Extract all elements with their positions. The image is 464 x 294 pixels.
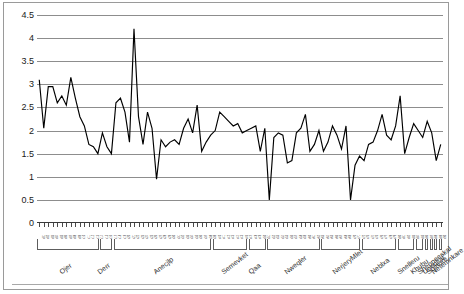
x-tick bbox=[148, 223, 149, 227]
group-label: Semevket bbox=[220, 251, 249, 276]
x-tick bbox=[44, 223, 45, 227]
x-tick bbox=[57, 223, 58, 227]
x-tick bbox=[184, 223, 185, 227]
x-tick bbox=[436, 223, 437, 227]
x-tick bbox=[102, 223, 103, 227]
x-tick bbox=[414, 223, 415, 227]
group-bracket bbox=[398, 239, 415, 250]
x-tick bbox=[80, 223, 81, 227]
group-labels: OjerDerrAnecjlpSemevketQaaNweqlerNerjery… bbox=[37, 252, 443, 292]
x-tick bbox=[333, 223, 334, 227]
group-label: Qaa bbox=[247, 262, 262, 276]
y-tick-label: 0.5 bbox=[21, 196, 34, 205]
x-tick bbox=[342, 223, 343, 227]
x-tick bbox=[75, 223, 76, 227]
group-bracket bbox=[362, 239, 397, 250]
x-tick bbox=[319, 223, 320, 227]
x-tick bbox=[373, 223, 374, 227]
x-tick bbox=[287, 223, 288, 227]
x-tick bbox=[247, 223, 248, 227]
x-tick bbox=[360, 223, 361, 227]
x-tick bbox=[161, 223, 162, 227]
x-tick bbox=[387, 223, 388, 227]
x-tick bbox=[314, 223, 315, 227]
x-tick bbox=[121, 223, 122, 227]
group-bracket bbox=[416, 239, 424, 250]
x-tick bbox=[224, 223, 225, 227]
x-tick bbox=[324, 223, 325, 227]
x-tick bbox=[84, 223, 85, 227]
x-tick bbox=[265, 223, 266, 227]
x-tick bbox=[116, 223, 117, 227]
x-tick bbox=[111, 223, 112, 227]
x-tick bbox=[152, 223, 153, 227]
x-tick bbox=[251, 223, 252, 227]
group-bracket bbox=[439, 239, 442, 250]
x-tick bbox=[53, 223, 54, 227]
plot-area bbox=[37, 15, 443, 223]
y-tick-label: 4.5 bbox=[21, 11, 34, 20]
x-tick bbox=[400, 223, 401, 227]
group-bracket bbox=[213, 239, 248, 250]
x-tick bbox=[139, 223, 140, 227]
x-tick bbox=[98, 223, 99, 227]
x-tick bbox=[369, 223, 370, 227]
x-tick bbox=[355, 223, 356, 227]
x-tick bbox=[202, 223, 203, 227]
x-tick bbox=[220, 223, 221, 227]
x-tick bbox=[423, 223, 424, 227]
y-tick-label: 1 bbox=[29, 173, 34, 182]
x-tick bbox=[328, 223, 329, 227]
x-tick bbox=[125, 223, 126, 227]
x-tick bbox=[292, 223, 293, 227]
x-tick bbox=[89, 223, 90, 227]
x-tick bbox=[130, 223, 131, 227]
x-tick bbox=[351, 223, 352, 227]
x-tick bbox=[242, 223, 243, 227]
x-tick bbox=[391, 223, 392, 227]
x-tick bbox=[432, 223, 433, 227]
x-tick bbox=[179, 223, 180, 227]
x-tick bbox=[238, 223, 239, 227]
x-tick bbox=[66, 223, 67, 227]
x-tick bbox=[301, 223, 302, 227]
x-tick bbox=[260, 223, 261, 227]
y-tick-label: 3.5 bbox=[21, 57, 34, 66]
group-label: NerjeryMlet bbox=[331, 248, 364, 276]
x-tick bbox=[71, 223, 72, 227]
group-brackets bbox=[37, 239, 443, 252]
x-tick bbox=[211, 223, 212, 227]
group-bracket bbox=[37, 239, 99, 250]
x-tick bbox=[274, 223, 275, 227]
x-tick bbox=[405, 223, 406, 227]
y-tick-label: 3 bbox=[29, 80, 34, 89]
x-tick bbox=[157, 223, 158, 227]
x-tick bbox=[229, 223, 230, 227]
group-label: Derr bbox=[96, 261, 111, 275]
x-tick bbox=[175, 223, 176, 227]
x-tick bbox=[296, 223, 297, 227]
x-tick bbox=[93, 223, 94, 227]
x-tick bbox=[215, 223, 216, 227]
x-tick bbox=[441, 223, 442, 227]
group-bracket bbox=[321, 239, 360, 250]
x-tick bbox=[107, 223, 108, 227]
group-label: Nweqler bbox=[283, 254, 308, 275]
group-bracket bbox=[434, 239, 437, 250]
x-tick bbox=[427, 223, 428, 227]
x-tick bbox=[256, 223, 257, 227]
data-line bbox=[39, 29, 440, 200]
x-tick bbox=[233, 223, 234, 227]
group-bracket bbox=[267, 239, 320, 250]
x-tick-label: x90 bbox=[444, 235, 447, 239]
x-tick bbox=[62, 223, 63, 227]
x-tick bbox=[188, 223, 189, 227]
x-tick bbox=[143, 223, 144, 227]
chart-frame: 4.543.532.521.510.50 x01x02x03x04x05x06x… bbox=[3, 2, 449, 290]
x-tick bbox=[269, 223, 270, 227]
x-tick bbox=[134, 223, 135, 227]
group-bracket bbox=[430, 239, 433, 250]
line-series-svg bbox=[37, 15, 443, 223]
group-bracket bbox=[114, 239, 212, 250]
x-tick bbox=[278, 223, 279, 227]
